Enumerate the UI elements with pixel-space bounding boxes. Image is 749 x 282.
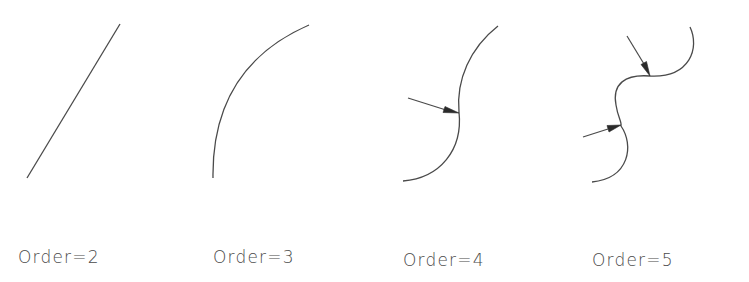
straight-line-curve — [27, 24, 120, 178]
panel-order-2-graphic — [27, 24, 120, 178]
order-title: Order=3 — [213, 243, 320, 271]
order-title: Order=5 — [592, 246, 711, 274]
order-title: Order=4 — [403, 246, 522, 274]
lower-inflection-arrow-shaft — [583, 129, 608, 137]
inflection-arrow-icon — [443, 107, 459, 114]
panel-order-5-graphic — [583, 27, 694, 182]
order-title: Order=2 — [18, 243, 159, 271]
lower-inflection-arrow-icon — [607, 125, 621, 132]
upper-inflection-arrow-icon — [641, 62, 650, 77]
panel-order-2-label: Order=2 (No curvature) — [18, 187, 159, 282]
panel-order-4-label: Order=4 (1 curvature change) — [403, 190, 522, 282]
panel-order-5-label: Order=5 (2 curvature changes) — [592, 190, 711, 282]
upper-inflection-arrow-shaft — [627, 36, 644, 64]
constant-curvature-arc — [213, 25, 309, 178]
panel-order-4-graphic — [403, 26, 498, 181]
panel-order-3-label: Order=3 (Constant curvature) — [213, 187, 320, 282]
panel-order-3-graphic — [213, 25, 309, 178]
inflection-arrow-shaft — [408, 98, 446, 110]
s-curve-one-inflection — [403, 26, 498, 181]
double-s-curve-two-inflections — [592, 27, 694, 182]
